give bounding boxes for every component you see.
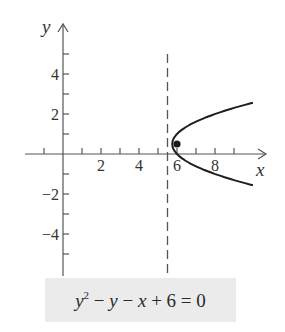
equation-text: y2 − y − x + 6 = 0 [75, 289, 206, 312]
x-tick-label: 4 [135, 157, 143, 174]
y-tick-label: −4 [42, 226, 59, 243]
equation-caption: y2 − y − x + 6 = 0 [45, 278, 236, 322]
x-axis-label: x [255, 159, 265, 180]
x-tick-label: 8 [211, 157, 219, 174]
focus-point [173, 140, 180, 147]
axes [25, 24, 266, 276]
x-tick-label: 2 [97, 157, 105, 174]
parabola-curve [172, 103, 253, 185]
y-axis-label: y [40, 16, 51, 37]
y-tick-label: 4 [51, 66, 59, 83]
y-tick-label: −2 [42, 186, 59, 203]
y-tick-label: 2 [51, 106, 59, 123]
x-tick-label: 6 [173, 157, 181, 174]
